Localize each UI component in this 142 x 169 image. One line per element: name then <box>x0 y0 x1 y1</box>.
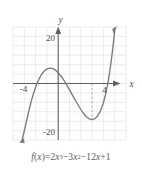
x-tick-label-four: 4 <box>102 85 107 95</box>
cubic-function-figure: -4 4 20 -20 y x f(x) = 2x3 − 3x2 − 12x +… <box>0 0 142 169</box>
y-axis-label: y <box>57 15 63 25</box>
caption-term2-var: x <box>73 152 77 162</box>
caption-term1-var: x <box>55 152 59 162</box>
caption-term3-coef: 12 <box>86 152 96 162</box>
y-tick-label-twenty: 20 <box>46 33 56 43</box>
cubic-graph-svg: -4 4 20 -20 y x <box>0 0 142 146</box>
x-axis-label: x <box>128 79 134 89</box>
x-tick-label-negative-four: -4 <box>20 84 28 94</box>
function-caption: f(x) = 2x3 − 3x2 − 12x + 1 <box>0 145 142 169</box>
caption-term4-const: 1 <box>106 152 111 162</box>
graph-plot-area: -4 4 20 -20 y x <box>0 0 142 146</box>
y-tick-label-negative-twenty: -20 <box>43 127 55 137</box>
